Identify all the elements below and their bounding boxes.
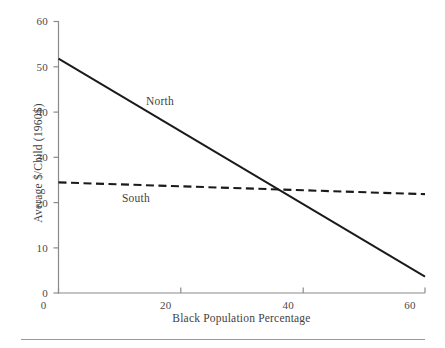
plot-canvas xyxy=(0,0,445,348)
series-line-north xyxy=(59,59,426,277)
x-axis-label: Black Population Percentage xyxy=(58,312,425,324)
x-tick-label: 20 xyxy=(151,299,181,311)
y-tick-label: 60 xyxy=(22,15,48,27)
chart-page: 60 50 40 30 20 10 0 0 20 40 60 Average $… xyxy=(0,0,445,348)
y-axis-label: Average $/Child (1960$) xyxy=(32,63,44,263)
line-chart-figure: 60 50 40 30 20 10 0 0 20 40 60 Average $… xyxy=(0,0,445,348)
footer-divider xyxy=(21,339,425,340)
x-tick-label: 60 xyxy=(395,299,425,311)
series-annotation-north: North xyxy=(146,95,174,107)
y-tick-marks xyxy=(54,22,59,294)
series-line-south xyxy=(59,182,426,194)
x-tick-label: 0 xyxy=(29,299,59,311)
x-tick-marks xyxy=(59,288,426,294)
x-tick-label: 40 xyxy=(273,299,303,311)
series-annotation-south: South xyxy=(122,192,150,204)
y-tick-label: 0 xyxy=(22,287,48,299)
